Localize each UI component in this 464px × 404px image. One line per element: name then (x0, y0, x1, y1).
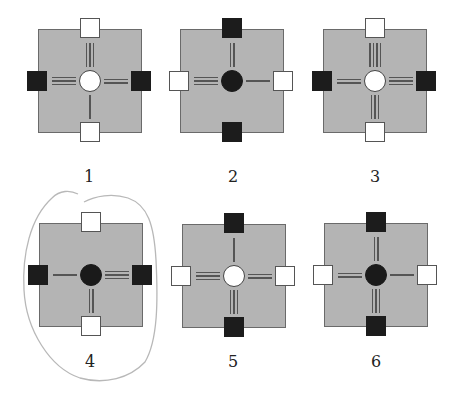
top-block-white (365, 18, 385, 38)
center-circle-white (364, 70, 386, 92)
connector-left (338, 273, 362, 278)
connector-bottom (89, 289, 94, 313)
connector-right (389, 77, 413, 86)
center-circle-black (80, 264, 102, 286)
connector-left (337, 79, 361, 84)
connector-right (390, 274, 414, 276)
connector-left (196, 272, 220, 281)
connector-bottom (89, 95, 91, 119)
center-circle-white (79, 70, 101, 92)
panel-label: 2 (218, 167, 248, 186)
connector-right (246, 80, 270, 82)
bottom-block-black (222, 122, 242, 142)
bottom-block-white (80, 122, 100, 142)
center-circle-black (365, 264, 387, 286)
panel-label: 6 (361, 352, 391, 371)
connector-top (230, 43, 235, 67)
right-block-black (132, 265, 152, 285)
left-block-white (171, 266, 191, 286)
panel-6 (324, 223, 428, 327)
panel-2 (180, 29, 284, 133)
bottom-block-white (81, 316, 101, 336)
left-block-black (27, 71, 47, 91)
connector-bottom (372, 289, 381, 313)
connector-left (52, 77, 76, 86)
panel-3 (323, 29, 427, 133)
panel-5 (182, 224, 286, 328)
panel-1 (38, 29, 142, 133)
connector-bottom (371, 95, 380, 119)
bottom-block-black (366, 316, 386, 336)
panel-label: 5 (218, 352, 248, 371)
left-block-black (312, 71, 332, 91)
bottom-block-white (365, 122, 385, 142)
connector-top (233, 238, 235, 262)
connector-bottom (230, 290, 239, 314)
top-block-white (81, 212, 101, 232)
top-block-black (366, 212, 386, 232)
connector-left (194, 77, 218, 86)
right-block-black (131, 71, 151, 91)
panel-4 (39, 223, 143, 327)
left-block-black (28, 265, 48, 285)
panel-label: 1 (74, 167, 104, 186)
panel-label: 4 (75, 352, 105, 371)
connector-top (86, 43, 95, 67)
right-block-white (417, 265, 437, 285)
bottom-block-black (224, 317, 244, 337)
diagram-stage: 123456 (0, 0, 464, 404)
connector-left (53, 274, 77, 276)
right-block-white (275, 266, 295, 286)
connector-top (374, 237, 379, 261)
top-block-black (222, 18, 242, 38)
connector-right (248, 274, 272, 279)
panel-label: 3 (360, 167, 390, 186)
connector-top (369, 43, 381, 67)
center-circle-white (223, 265, 245, 287)
connector-right (104, 79, 128, 84)
center-circle-black (221, 70, 243, 92)
top-block-black (224, 213, 244, 233)
left-block-white (313, 265, 333, 285)
right-block-white (273, 71, 293, 91)
right-block-black (416, 71, 436, 91)
left-block-white (169, 71, 189, 91)
connector-right (105, 271, 129, 280)
top-block-white (80, 18, 100, 38)
